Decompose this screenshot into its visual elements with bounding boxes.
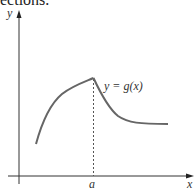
x-axis-label: x xyxy=(187,178,192,188)
y-axis-arrow-icon xyxy=(17,10,22,18)
graph-figure: ections. y y = g(x) a x xyxy=(0,0,194,188)
curve-label: y = g(x) xyxy=(104,80,143,92)
point-a-label: a xyxy=(89,178,95,188)
y-axis-label: y xyxy=(7,7,12,19)
graph-canvas xyxy=(0,0,194,188)
curve-left xyxy=(36,78,94,144)
